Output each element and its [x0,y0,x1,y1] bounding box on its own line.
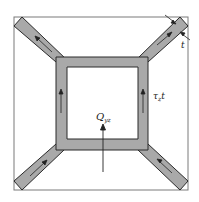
shear-flow-label: τzt [153,91,165,102]
arm-top-left [14,17,67,62]
arrow-head-icon [101,124,106,130]
thickness-label: t [181,40,185,50]
shear-force-label: Qyz [96,111,112,124]
arm-bottom-left [14,144,64,190]
thin-walled-section-diagram: τzt t Qyz [0,0,199,202]
arm-bottom-right [138,144,188,190]
central-cell-wall [56,57,148,150]
